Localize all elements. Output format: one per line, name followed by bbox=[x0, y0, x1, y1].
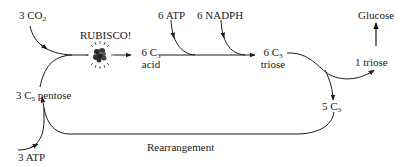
atp-bottom-input-arrow bbox=[18, 97, 44, 150]
pentose-name: pentose bbox=[38, 89, 72, 101]
pentose-to-main-curve bbox=[40, 55, 72, 87]
atp-bottom-label: 3 ATP bbox=[18, 151, 45, 163]
triose-count: 6 C bbox=[263, 46, 279, 58]
triose-name: triose bbox=[257, 58, 289, 70]
rearrangement-path bbox=[44, 108, 334, 134]
pentose-subscript: 5 bbox=[32, 95, 36, 103]
co2-label: 3 CO2 bbox=[19, 9, 46, 21]
rearrangement-label: Rearrangement bbox=[147, 141, 214, 153]
five-c3-count: 5 C bbox=[322, 100, 338, 112]
acid-name: acid bbox=[138, 58, 164, 70]
rubisco-label: RUBISCO! bbox=[80, 29, 131, 41]
one-triose-label: 1 triose bbox=[355, 56, 388, 68]
glucose-label: Glucose bbox=[358, 9, 394, 21]
rubisco-molecule-icon bbox=[86, 41, 114, 69]
acid-count: 6 C bbox=[141, 46, 157, 58]
atp-top-label: 6 ATP bbox=[158, 9, 185, 21]
co2-input-arrow bbox=[30, 26, 72, 55]
co2-count: 3 bbox=[19, 9, 25, 21]
atp-input-arrow bbox=[171, 20, 195, 55]
five-c3-subscript: 3 bbox=[338, 106, 342, 114]
five-c3-label: 5 C3 bbox=[322, 100, 341, 112]
nadph-input-arrow bbox=[221, 20, 245, 55]
acid-node: 6 C3 acid bbox=[138, 46, 164, 70]
triose-node: 6 C3 triose bbox=[257, 46, 289, 70]
pentose-count: 3 C bbox=[16, 89, 32, 101]
pentose-node: 3 C5 pentose bbox=[16, 89, 71, 101]
co2-subscript: 2 bbox=[43, 15, 47, 23]
nadph-label: 6 NADPH bbox=[197, 9, 243, 21]
co2-species: CO bbox=[27, 9, 42, 21]
